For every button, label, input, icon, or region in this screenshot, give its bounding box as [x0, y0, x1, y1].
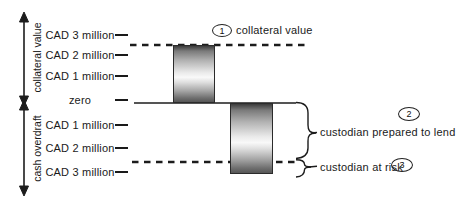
callout-1-badge: 1	[212, 24, 232, 37]
tick-mark	[115, 99, 128, 101]
overdraft-bar	[230, 103, 273, 174]
callout-1-number: 1	[219, 26, 224, 36]
tick-mark	[115, 54, 128, 56]
collateral-overdraft-diagram: collateral value cash overdraft CAD 3 mi…	[0, 0, 457, 204]
tick-mark	[115, 124, 128, 126]
lend-pointer-dash	[311, 133, 317, 134]
tick-mark	[115, 147, 128, 149]
tick-mark	[115, 171, 128, 173]
collateral-value-label: collateral value	[236, 24, 313, 37]
custodian-prepared-to-lend-label: custodian prepared to lend	[320, 126, 455, 139]
at-risk-brace	[296, 160, 311, 177]
callout-2-badge: 2	[398, 107, 420, 121]
collateral-bar	[173, 45, 215, 103]
prepared-to-lend-brace	[296, 103, 316, 159]
tick-mark	[115, 75, 128, 77]
callout-2-number: 2	[406, 109, 411, 119]
custodian-at-risk-label: custodian at risk	[320, 161, 403, 174]
risk-pointer-dash	[309, 166, 317, 167]
tick-mark	[115, 34, 128, 36]
